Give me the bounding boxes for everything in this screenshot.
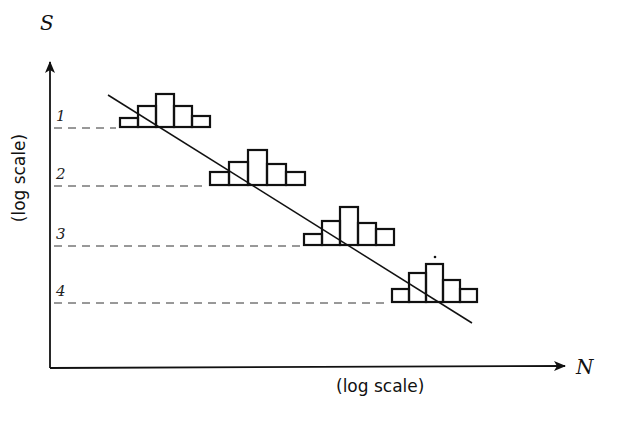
- y-axis-scale-note: (log scale): [9, 134, 29, 222]
- histogram-bar: [376, 229, 394, 245]
- histogram-bar: [156, 94, 174, 127]
- s-vs-n-diagram: S N (log scale) (log scale) 1234: [0, 0, 617, 426]
- level-2: 2: [54, 150, 305, 186]
- level-groups: 1234: [54, 94, 477, 303]
- x-axis-line: [50, 366, 565, 368]
- y-axis-symbol: S: [40, 11, 54, 35]
- histogram-bar: [120, 118, 138, 127]
- histogram-bar: [392, 289, 409, 302]
- histogram-bar: [443, 280, 460, 302]
- histogram-bar: [174, 106, 192, 127]
- histogram-bar: [192, 116, 210, 127]
- level-label: 1: [56, 107, 66, 125]
- level-label: 4: [55, 282, 66, 300]
- histogram: [392, 264, 477, 302]
- trend-line: [108, 95, 472, 323]
- level-label: 2: [55, 165, 66, 183]
- level-3: 3: [54, 207, 394, 246]
- histogram-bar: [409, 273, 426, 302]
- x-axis-scale-note: (log scale): [336, 376, 424, 396]
- histogram-bar: [460, 289, 477, 302]
- histogram-bar: [322, 221, 340, 245]
- histogram-bar: [340, 207, 358, 245]
- x-axis-symbol: N: [575, 355, 595, 379]
- histogram-bar: [358, 223, 376, 245]
- histogram-bar: [286, 172, 305, 185]
- marker-dot: [434, 256, 437, 259]
- level-label: 3: [56, 225, 66, 243]
- histogram-bar: [248, 150, 267, 185]
- histogram-bar: [304, 234, 322, 245]
- histogram-bar: [210, 172, 229, 185]
- level-1: 1: [54, 94, 210, 128]
- histogram-bar: [267, 164, 286, 185]
- level-4: 4: [54, 264, 477, 303]
